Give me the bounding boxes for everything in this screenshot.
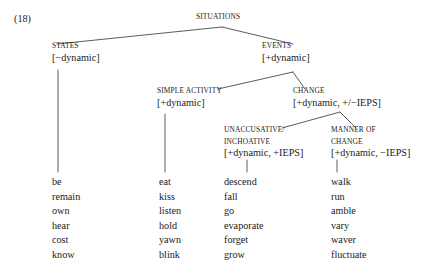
node-manner-of-change-label-line2: CHANGE — [331, 136, 410, 148]
list-item: blink — [159, 248, 181, 263]
list-item: go — [224, 204, 264, 219]
list-item: know — [52, 248, 80, 263]
list-item: cost — [52, 233, 80, 248]
figure-tree-diagram: (18) SITUATIONS STATES [−dynamic] EVENTS… — [0, 0, 429, 272]
node-events: EVENTS [+dynamic] — [262, 40, 310, 63]
node-states-label: STATES — [52, 40, 100, 52]
branch-events-to-simple-activity — [218, 72, 293, 89]
unaccusative-inchoative-examples-list: descend fall go evaporate forget grow — [224, 175, 264, 262]
node-states-features: [−dynamic] — [52, 52, 100, 64]
list-item: descend — [224, 175, 264, 190]
node-simple-activity-features: [+dynamic] — [157, 97, 222, 109]
list-item: walk — [331, 175, 367, 190]
node-simple-activity: SIMPLE ACTIVITY [+dynamic] — [157, 85, 222, 108]
list-item: hold — [159, 219, 181, 234]
node-change-features: [+dynamic, +/−IEPS] — [293, 97, 381, 109]
list-item: waver — [331, 233, 367, 248]
list-item: fall — [224, 190, 264, 205]
node-unaccusative-inchoative-label-line2: INCHOATIVE — [224, 136, 303, 148]
node-manner-of-change: MANNER OF CHANGE [+dynamic, −IEPS] — [331, 124, 410, 159]
list-item: listen — [159, 204, 181, 219]
list-item: remain — [52, 190, 80, 205]
list-item: evaporate — [224, 219, 264, 234]
node-unaccusative-inchoative-label-line1: UNACCUSATIVE/ — [224, 124, 303, 136]
list-item: own — [52, 204, 80, 219]
node-events-features: [+dynamic] — [262, 52, 310, 64]
node-manner-of-change-features: [+dynamic, −IEPS] — [331, 147, 410, 159]
node-simple-activity-label: SIMPLE ACTIVITY — [157, 85, 222, 97]
list-item: yawn — [159, 233, 181, 248]
node-states: STATES [−dynamic] — [52, 40, 100, 63]
list-item: amble — [331, 204, 367, 219]
node-events-label: EVENTS — [262, 40, 310, 52]
manner-of-change-examples-list: walk run amble vary waver fluctuate — [331, 175, 367, 262]
list-item: hear — [52, 219, 80, 234]
simple-activity-examples-list: eat kiss listen hold yawn blink — [159, 175, 181, 262]
list-item: vary — [331, 219, 367, 234]
list-item: grow — [224, 248, 264, 263]
node-unaccusative-inchoative-features: [+dynamic, +IEPS] — [224, 147, 303, 159]
node-situations-label: SITUATIONS — [196, 11, 240, 23]
list-item: eat — [159, 175, 181, 190]
list-item: fluctuate — [331, 248, 367, 263]
node-change: CHANGE [+dynamic, +/−IEPS] — [293, 85, 381, 108]
node-change-label: CHANGE — [293, 85, 381, 97]
list-item: kiss — [159, 190, 181, 205]
node-manner-of-change-label-line1: MANNER OF — [331, 124, 410, 136]
states-examples-list: be remain own hear cost know — [52, 175, 80, 262]
list-item: forget — [224, 233, 264, 248]
list-item: run — [331, 190, 367, 205]
list-item: be — [52, 175, 80, 190]
node-situations: SITUATIONS — [196, 11, 240, 23]
node-unaccusative-inchoative: UNACCUSATIVE/ INCHOATIVE [+dynamic, +IEP… — [224, 124, 303, 159]
